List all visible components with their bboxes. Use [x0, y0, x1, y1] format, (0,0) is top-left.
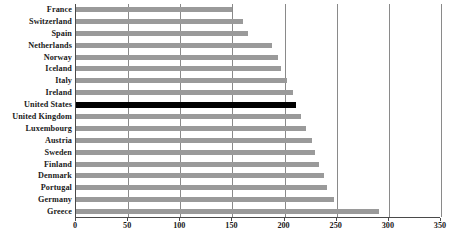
x-tick-label-50: 50 [123, 221, 131, 230]
x-tick-label-200: 200 [277, 221, 289, 230]
bar-row [76, 52, 440, 64]
bar-row [76, 159, 440, 171]
bar-greece [76, 209, 379, 214]
plot-area [75, 4, 440, 218]
bar-row [76, 40, 440, 52]
bar-iceland [76, 66, 281, 71]
category-label-portugal: Portugal [0, 182, 72, 194]
bar-row [76, 194, 440, 206]
bar-row [76, 147, 440, 159]
x-tick-label-350: 350 [434, 221, 446, 230]
bar-united-states [76, 102, 296, 108]
category-label-austria: Austria [0, 135, 72, 147]
bar-row [76, 87, 440, 99]
category-label-switzerland: Switzerland [0, 16, 72, 28]
x-axis: 050100150200250300350 [75, 218, 440, 234]
category-label-greece: Greece [0, 206, 72, 218]
bar-chart: FranceSwitzerlandSpainNetherlandsNorwayI… [0, 0, 451, 234]
category-label-united-kingdom: United Kingdom [0, 111, 72, 123]
gridline-350 [441, 4, 442, 217]
category-label-denmark: Denmark [0, 170, 72, 182]
bar-row [76, 123, 440, 135]
bar-ireland [76, 90, 293, 95]
bar-sweden [76, 150, 315, 155]
bar-norway [76, 55, 278, 60]
bar-switzerland [76, 19, 243, 24]
bar-row [76, 135, 440, 147]
x-tick-label-150: 150 [225, 221, 237, 230]
bar-row [76, 170, 440, 182]
category-label-united-states: United States [0, 99, 72, 111]
bar-netherlands [76, 43, 272, 48]
x-tick-label-250: 250 [330, 221, 342, 230]
bar-france [76, 7, 232, 12]
bar-row [76, 206, 440, 218]
bar-row [76, 16, 440, 28]
bar-denmark [76, 173, 324, 178]
category-label-germany: Germany [0, 194, 72, 206]
category-label-luxembourg: Luxembourg [0, 123, 72, 135]
category-axis-labels: FranceSwitzerlandSpainNetherlandsNorwayI… [0, 4, 72, 218]
bar-row [76, 4, 440, 16]
category-label-sweden: Sweden [0, 147, 72, 159]
category-label-finland: Finland [0, 159, 72, 171]
bar-row [76, 182, 440, 194]
bar-austria [76, 138, 312, 143]
bar-finland [76, 162, 319, 167]
x-tick-label-300: 300 [382, 221, 394, 230]
category-label-france: France [0, 4, 72, 16]
category-label-spain: Spain [0, 28, 72, 40]
bar-germany [76, 197, 334, 202]
category-label-netherlands: Netherlands [0, 40, 72, 52]
bars-container [76, 4, 440, 217]
bar-row [76, 63, 440, 75]
bar-row [76, 111, 440, 123]
category-label-ireland: Ireland [0, 87, 72, 99]
x-tick-label-0: 0 [73, 221, 77, 230]
bar-portugal [76, 185, 327, 190]
bar-row [76, 75, 440, 87]
bar-row [76, 28, 440, 40]
category-label-italy: Italy [0, 75, 72, 87]
bar-row [76, 99, 440, 111]
bar-italy [76, 78, 287, 83]
x-tick-label-100: 100 [173, 221, 185, 230]
category-label-iceland: Iceland [0, 63, 72, 75]
bar-luxembourg [76, 126, 306, 131]
category-label-norway: Norway [0, 52, 72, 64]
bar-united-kingdom [76, 114, 301, 119]
bar-spain [76, 31, 248, 36]
